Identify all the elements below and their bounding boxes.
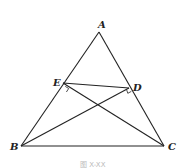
label-c: C [168,141,176,152]
segment-ed [63,83,129,88]
label-e: E [52,77,61,88]
label-d: D [132,82,142,93]
label-b: B [9,141,18,152]
segment-ce [63,83,164,146]
triangle-diagram: A B C E D 图 X-XX [0,0,185,168]
segment-bd [21,88,129,146]
right-angle-mark-e [65,86,68,92]
figure-caption: 图 X-XX [80,161,106,168]
right-angle-mark-d [127,89,132,93]
label-a: A [97,19,106,30]
segment-ac [99,32,164,146]
segment-ab [21,32,99,146]
